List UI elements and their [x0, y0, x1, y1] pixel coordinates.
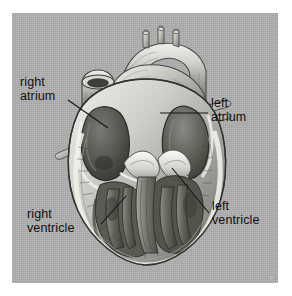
label-right-ventricle: right ventricle — [27, 207, 74, 235]
label-right-atrium: right atrium — [20, 75, 55, 103]
label-left-atrium-line2: atrium — [211, 110, 246, 124]
label-left-atrium-line1: left — [211, 96, 246, 110]
heart-illustration — [12, 13, 278, 283]
label-right-ventricle-line2: ventricle — [27, 221, 74, 235]
label-right-atrium-line2: atrium — [20, 89, 55, 103]
label-left-ventricle-line1: left — [212, 199, 259, 213]
scan-corner-artifact — [270, 276, 276, 280]
figure-root: right atrium left atrium right ventricle… — [0, 0, 292, 296]
illustration-plate-inner — [12, 13, 278, 283]
label-left-ventricle-line2: ventricle — [212, 213, 259, 227]
illustration-plate — [12, 13, 278, 283]
label-right-ventricle-line1: right — [27, 207, 74, 221]
label-left-ventricle: left ventricle — [212, 199, 259, 227]
label-left-atrium: left atrium — [211, 96, 246, 124]
label-right-atrium-line1: right — [20, 75, 55, 89]
